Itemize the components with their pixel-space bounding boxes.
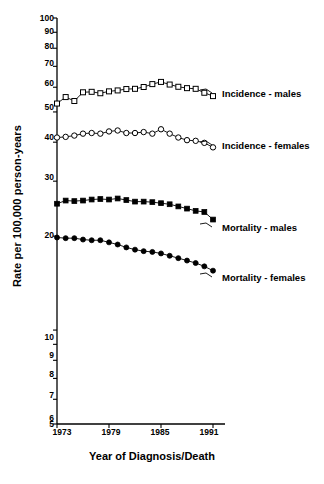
data-point (106, 129, 111, 134)
data-point (159, 79, 164, 84)
chart-figure: Rate per 100,000 person-years Year of Di… (0, 0, 324, 484)
data-point (202, 210, 207, 215)
data-point (211, 268, 216, 273)
data-point (124, 245, 129, 250)
data-point (55, 101, 60, 106)
data-point (63, 236, 68, 241)
data-point (107, 197, 112, 202)
data-point (167, 253, 172, 258)
data-point (193, 138, 198, 143)
data-point (124, 198, 129, 203)
data-point (210, 145, 215, 150)
data-point (63, 134, 68, 139)
data-point (115, 196, 120, 201)
data-point (150, 131, 155, 136)
data-point (55, 201, 60, 206)
data-point (72, 199, 77, 204)
data-point (63, 95, 68, 100)
data-point (72, 236, 77, 241)
data-point (54, 135, 59, 140)
data-point (176, 84, 181, 89)
data-point (167, 131, 172, 136)
data-point (124, 130, 129, 135)
data-point (115, 88, 120, 93)
chart-series-group (54, 79, 215, 277)
data-point (176, 204, 181, 209)
data-point (98, 238, 103, 243)
data-point (202, 264, 207, 269)
data-point (150, 200, 155, 205)
data-point (184, 137, 189, 142)
data-point (193, 261, 198, 266)
data-point (133, 199, 138, 204)
data-point (89, 238, 94, 243)
data-point (185, 206, 190, 211)
data-point (132, 130, 137, 135)
data-point (107, 240, 112, 245)
data-point (141, 85, 146, 90)
data-point (98, 197, 103, 202)
data-point (185, 86, 190, 91)
data-point (89, 89, 94, 94)
data-point (176, 135, 181, 140)
data-point (72, 99, 77, 104)
data-point (176, 256, 181, 261)
data-point (141, 249, 146, 254)
data-point (133, 247, 138, 252)
data-point (98, 91, 103, 96)
data-point (150, 249, 155, 254)
data-point (133, 86, 138, 91)
data-point (89, 130, 94, 135)
data-point (107, 89, 112, 94)
data-point (167, 202, 172, 207)
data-point (63, 198, 68, 203)
data-point (124, 87, 129, 92)
data-point (81, 90, 86, 95)
data-point (115, 242, 120, 247)
data-point (81, 237, 86, 242)
chart-axes (53, 18, 225, 428)
data-point (202, 90, 207, 95)
data-point (193, 208, 198, 213)
data-point (150, 82, 155, 87)
data-point (98, 131, 103, 136)
data-point (141, 199, 146, 204)
data-point (115, 128, 120, 133)
data-point (141, 129, 146, 134)
data-point (89, 197, 94, 202)
data-point (211, 217, 216, 222)
data-point (72, 133, 77, 138)
data-point (211, 94, 216, 99)
data-point (158, 127, 163, 132)
data-point (159, 201, 164, 206)
data-point (159, 251, 164, 256)
data-point (193, 86, 198, 91)
data-point (80, 131, 85, 136)
data-point (81, 198, 86, 203)
chart-plot-area (0, 0, 324, 484)
data-point (167, 82, 172, 87)
data-point (185, 258, 190, 263)
data-point (55, 235, 60, 240)
